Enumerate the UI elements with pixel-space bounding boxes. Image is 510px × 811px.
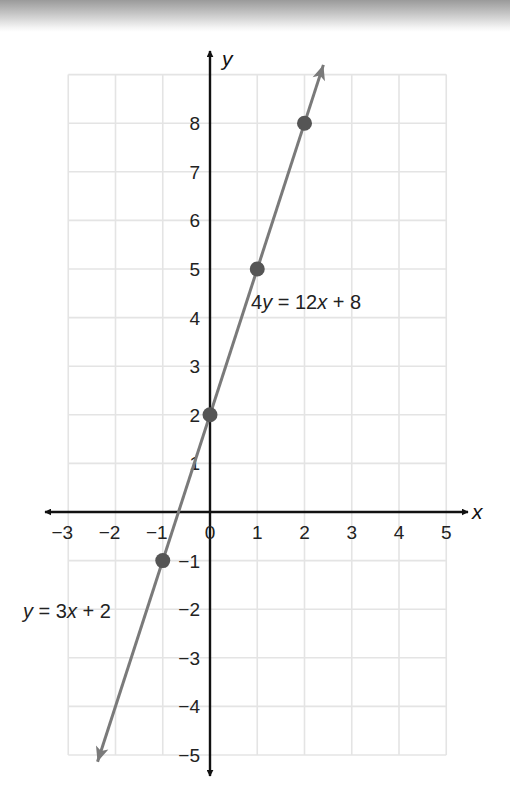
y-tick-label: 5 [189, 259, 200, 280]
data-point [297, 116, 312, 131]
x-tick-label: −3 [51, 522, 73, 543]
y-tick-label: −4 [178, 696, 200, 717]
y-tick-label: 4 [189, 308, 200, 329]
y-tick-label: 7 [189, 162, 200, 183]
x-tick-label: 2 [299, 522, 310, 543]
y-tick-label: 2 [189, 405, 200, 426]
x-tick-label: 0 [205, 522, 216, 543]
y-tick-label: −3 [178, 648, 200, 669]
tick-labels: −3−2−1012345−5−4−3−2−112345678 [51, 113, 451, 766]
grid-lines [68, 75, 446, 755]
y-tick-label: −5 [178, 745, 200, 766]
y-tick-label: −1 [178, 551, 200, 572]
x-tick-label: 5 [441, 522, 452, 543]
data-point [203, 407, 218, 422]
y-axis-label: y [220, 47, 234, 70]
axes: xy [45, 47, 484, 776]
y-tick-label: 8 [189, 113, 200, 134]
x-tick-label: 4 [394, 522, 405, 543]
equation-label-4y-12x-8: 4y = 12x + 8 [251, 291, 361, 313]
x-tick-label: −1 [146, 522, 168, 543]
x-tick-label: 1 [252, 522, 263, 543]
coordinate-plane: xy −3−2−1012345−5−4−3−2−112345678 4y = 1… [0, 0, 510, 811]
data-point [250, 262, 265, 277]
x-axis-label: x [471, 500, 484, 523]
data-point [155, 553, 170, 568]
y-tick-label: 6 [189, 210, 200, 231]
y-tick-label: −2 [178, 599, 200, 620]
y-tick-label: 3 [189, 356, 200, 377]
x-tick-label: −2 [99, 522, 121, 543]
equation-label-y-3x-2: y = 3x + 2 [21, 600, 111, 622]
x-tick-label: 3 [346, 522, 357, 543]
